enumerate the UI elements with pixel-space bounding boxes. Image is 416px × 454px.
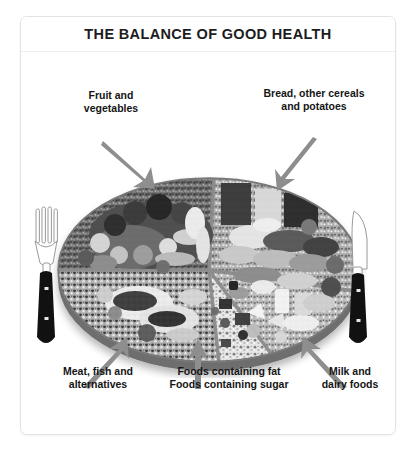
arrow-down-left-icon — [271, 137, 323, 195]
label-meat-fish-alternatives: Meat, fish and alternatives — [33, 365, 163, 391]
fork-icon — [29, 205, 63, 359]
title-bar: THE BALANCE OF GOOD HEALTH — [21, 17, 395, 52]
arrow-down-right-icon — [101, 139, 165, 195]
poster-card: THE BALANCE OF GOOD HEALTH — [20, 16, 396, 435]
page-title: THE BALANCE OF GOOD HEALTH — [84, 26, 331, 42]
label-fruit-and-vegetables: Fruit and vegetables — [51, 89, 171, 115]
label-bread-cereals-potatoes: Bread, other cereals and potatoes — [239, 87, 389, 113]
poster-body: Fruit and vegetables Bread, other cereal… — [21, 53, 395, 435]
label-milk-and-dairy-foods: Milk and dairy foods — [305, 365, 395, 391]
poster-root: THE BALANCE OF GOOD HEALTH — [0, 0, 416, 454]
label-foods-containing-fat-sugar: Foods containing fat Foods containing su… — [149, 365, 309, 391]
